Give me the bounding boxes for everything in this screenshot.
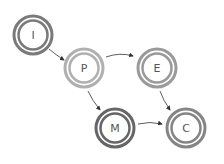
edge-e-c — [160, 91, 170, 110]
node-e-label: E — [154, 62, 161, 75]
edge-p-e — [106, 54, 133, 57]
node-c: C — [167, 109, 205, 147]
node-i-label: I — [31, 29, 34, 42]
node-i: I — [14, 16, 52, 54]
edge-m-c — [138, 123, 162, 125]
node-e: E — [138, 49, 176, 87]
flow-diagram: I P E M C — [0, 0, 224, 164]
node-m-label: M — [110, 122, 120, 135]
edge-i-p — [49, 49, 64, 60]
node-p-label: P — [81, 62, 88, 75]
node-p: P — [65, 49, 103, 87]
node-c-label: C — [182, 122, 190, 135]
node-m: M — [96, 109, 134, 147]
edge-p-m — [88, 91, 100, 110]
